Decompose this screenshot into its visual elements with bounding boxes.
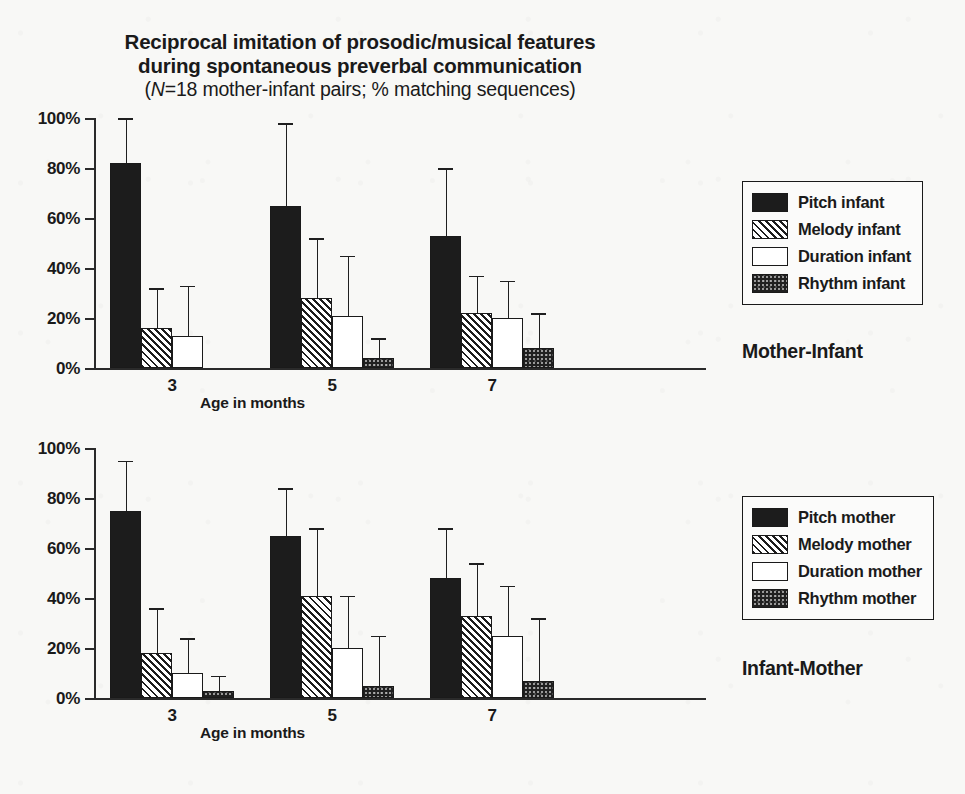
- y-tick-label: 0%: [56, 359, 80, 379]
- error-bar-line: [286, 123, 287, 206]
- bar-pitch-infant-age-5: [270, 206, 301, 369]
- error-bar-cap: [180, 638, 195, 640]
- bar-pitch-mother-age-5: [270, 536, 301, 699]
- error-bar-cap: [469, 276, 484, 278]
- x-axis-title-infant-mother: Age in months: [200, 724, 305, 742]
- legend-item-label: Rhythm infant: [798, 274, 905, 293]
- error-bar-line: [157, 608, 158, 653]
- bar-duration-mother-age-7: [492, 636, 523, 699]
- bar-rhythm-mother-age-3: [203, 691, 234, 699]
- legend-swatch-icon: [752, 274, 788, 293]
- bar-pitch-mother-age-7: [430, 578, 461, 698]
- plot-area-mother-infant: 0%20%40%60%80%100%357: [94, 118, 704, 370]
- error-bar-line: [379, 338, 380, 358]
- bar-duration-mother-age-5: [332, 648, 363, 698]
- error-bar-cap: [118, 118, 133, 120]
- x-axis-title-mother-infant: Age in months: [200, 394, 305, 412]
- y-tick-mark: [85, 168, 96, 170]
- bar-melody-mother-age-7: [461, 616, 492, 699]
- error-bar-line: [348, 596, 349, 649]
- bar-duration-infant-age-7: [492, 318, 523, 368]
- chart-panel-mother-infant: 0%20%40%60%80%100%357 Pitch infantMelody…: [0, 118, 965, 428]
- bar-pitch-infant-age-3: [110, 163, 141, 368]
- bar-duration-infant-age-3: [172, 336, 203, 369]
- title-n-symbol: N: [151, 78, 165, 100]
- error-bar-cap: [149, 288, 164, 290]
- error-bar-line: [317, 238, 318, 298]
- error-bar-cap: [309, 238, 324, 240]
- legend-swatch-icon: [752, 589, 788, 608]
- error-bar-cap: [531, 313, 546, 315]
- bar-melody-infant-age-5: [301, 298, 332, 368]
- y-tick-mark: [85, 118, 96, 120]
- legend-item-melody-infant[interactable]: Melody infant: [752, 216, 911, 243]
- bar-rhythm-infant-age-7: [523, 348, 554, 368]
- error-bar-cap: [149, 608, 164, 610]
- error-bar-line: [539, 618, 540, 681]
- error-bar-cap: [118, 461, 133, 463]
- title-subtitle: (N=18 mother-infant pairs; % matching se…: [0, 78, 720, 101]
- error-bar-line: [379, 636, 380, 686]
- error-bar-cap: [278, 488, 293, 490]
- error-bar-cap: [500, 281, 515, 283]
- error-bar-cap: [309, 528, 324, 530]
- y-tick-label: 80%: [47, 489, 80, 509]
- error-bar-cap: [371, 636, 386, 638]
- x-tick-label-age-7: 7: [487, 376, 496, 396]
- y-tick-mark: [85, 648, 96, 650]
- legend-item-duration-infant[interactable]: Duration infant: [752, 243, 911, 270]
- error-bar-cap: [211, 676, 226, 678]
- y-tick-mark: [85, 498, 96, 500]
- bar-duration-infant-age-5: [332, 316, 363, 369]
- title-line-1: Reciprocal imitation of prosodic/musical…: [0, 30, 720, 54]
- y-tick-mark: [85, 368, 96, 370]
- x-tick-label-age-3: 3: [167, 706, 176, 726]
- y-tick-label: 80%: [47, 159, 80, 179]
- bar-pitch-mother-age-3: [110, 511, 141, 699]
- y-tick-mark: [85, 598, 96, 600]
- bar-duration-mother-age-3: [172, 673, 203, 698]
- title-subtitle-rest: =18 mother-infant pairs; % matching sequ…: [165, 78, 576, 100]
- error-bar-line: [317, 528, 318, 596]
- error-bar-line: [157, 288, 158, 328]
- legend-item-rhythm-mother[interactable]: Rhythm mother: [752, 585, 922, 612]
- error-bar-cap: [531, 618, 546, 620]
- legend-mother-infant: Pitch infantMelody infantDuration infant…: [742, 181, 923, 305]
- error-bar-cap: [371, 338, 386, 340]
- error-bar-cap: [438, 168, 453, 170]
- bar-melody-infant-age-3: [141, 328, 172, 368]
- legend-infant-mother: Pitch motherMelody motherDuration mother…: [742, 496, 934, 620]
- x-axis-line: [94, 698, 706, 700]
- legend-item-pitch-infant[interactable]: Pitch infant: [752, 189, 911, 216]
- legend-swatch-icon: [752, 508, 788, 527]
- y-tick-mark: [85, 448, 96, 450]
- error-bar-line: [219, 676, 220, 691]
- legend-swatch-icon: [752, 535, 788, 554]
- panel-side-label-mother-infant: Mother-Infant: [742, 340, 863, 363]
- bar-melody-infant-age-7: [461, 313, 492, 368]
- legend-item-label: Melody mother: [798, 535, 911, 554]
- legend-item-duration-mother[interactable]: Duration mother: [752, 558, 922, 585]
- x-tick-label-age-5: 5: [327, 706, 336, 726]
- error-bar-cap: [469, 563, 484, 565]
- legend-item-rhythm-infant[interactable]: Rhythm infant: [752, 270, 911, 297]
- error-bar-line: [508, 586, 509, 636]
- legend-item-melody-mother[interactable]: Melody mother: [752, 531, 922, 558]
- error-bar-line: [477, 276, 478, 314]
- x-tick-label-age-5: 5: [327, 376, 336, 396]
- y-tick-label: 20%: [47, 639, 80, 659]
- legend-swatch-icon: [752, 193, 788, 212]
- legend-item-label: Duration infant: [798, 247, 911, 266]
- y-tick-label: 60%: [47, 209, 80, 229]
- error-bar-cap: [340, 256, 355, 258]
- error-bar-line: [126, 118, 127, 163]
- error-bar-line: [348, 256, 349, 316]
- y-tick-label: 20%: [47, 309, 80, 329]
- y-tick-label: 0%: [56, 689, 80, 709]
- legend-item-label: Melody infant: [798, 220, 900, 239]
- x-tick-label-age-3: 3: [167, 376, 176, 396]
- legend-item-label: Pitch infant: [798, 193, 884, 212]
- error-bar-line: [446, 528, 447, 578]
- y-tick-label: 100%: [38, 109, 80, 129]
- legend-item-pitch-mother[interactable]: Pitch mother: [752, 504, 922, 531]
